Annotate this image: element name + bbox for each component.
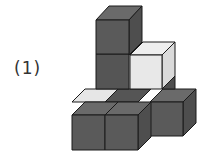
cube-stack-diagram	[0, 0, 213, 161]
cube-tier2-light	[130, 42, 175, 89]
cube-bottom-right	[150, 89, 196, 136]
cube-bottom-front-middle	[105, 102, 151, 150]
cube-tier2-dark	[96, 54, 129, 89]
bottom-tier-back-tops	[72, 89, 151, 102]
cube-top	[96, 6, 142, 55]
